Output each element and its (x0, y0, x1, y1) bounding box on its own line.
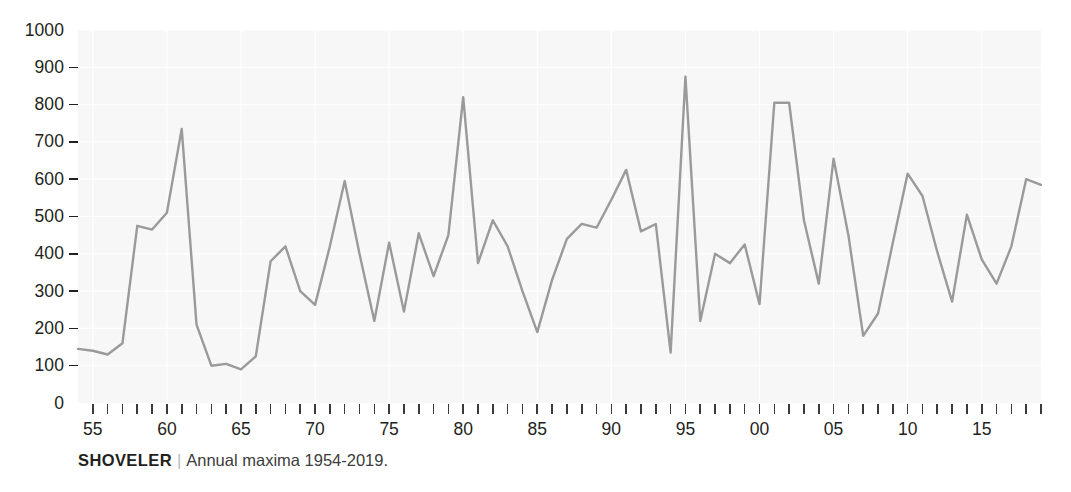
x-axis-tick-mark (774, 404, 776, 414)
data-series-line (78, 77, 1041, 370)
x-axis-tick-mark (448, 404, 450, 414)
x-axis-tick-label: 85 (528, 421, 547, 439)
x-axis-tick-label: 90 (602, 421, 621, 439)
y-axis-tick-mark (69, 141, 78, 143)
x-axis-tick-mark (329, 404, 331, 414)
x-axis-tick-mark (507, 404, 509, 414)
y-axis-tick-label: 300 (8, 283, 64, 301)
x-axis-tick-label: 00 (750, 421, 769, 439)
x-axis-tick-mark (729, 404, 731, 414)
x-axis-tick-mark (418, 404, 420, 414)
x-axis-tick-mark (359, 404, 361, 414)
x-axis-tick-mark (211, 404, 213, 414)
x-axis-tick-mark (92, 404, 94, 414)
x-axis-tick-mark (551, 404, 553, 414)
chart-caption: SHOVELER|Annual maxima 1954-2019. (78, 452, 388, 469)
x-axis-tick-mark (136, 404, 138, 414)
x-axis-tick-mark (374, 404, 376, 414)
x-axis-tick-mark (818, 404, 820, 414)
x-axis-tick-mark (833, 404, 835, 414)
x-axis-tick-label: 60 (157, 421, 176, 439)
x-axis-tick-mark (981, 404, 983, 414)
x-axis-tick-mark (151, 404, 153, 414)
x-axis-tick-mark (403, 404, 405, 414)
gridlines (78, 30, 1041, 403)
x-axis-tick-mark (1040, 404, 1042, 414)
x-axis-tick-mark (433, 404, 435, 414)
x-axis-tick-mark (522, 404, 524, 414)
x-axis-tick-mark (181, 404, 183, 414)
x-axis-tick-mark (922, 404, 924, 414)
x-axis-tick-mark (270, 404, 272, 414)
y-axis-tick-mark (69, 104, 78, 106)
y-axis-tick-label: 900 (8, 59, 64, 77)
x-axis-tick-mark (714, 404, 716, 414)
y-axis-tick-mark (69, 365, 78, 367)
y-axis-tick-label: 600 (8, 171, 64, 189)
y-axis-tick-mark (69, 178, 78, 180)
x-axis-tick-mark (299, 404, 301, 414)
x-axis-tick-label: 15 (972, 421, 991, 439)
x-axis-tick-label: 10 (898, 421, 917, 439)
x-axis-tick-mark (107, 404, 109, 414)
x-axis-tick-label: 55 (83, 421, 102, 439)
x-axis-tick-mark (788, 404, 790, 414)
x-axis-tick-label: 05 (824, 421, 843, 439)
x-axis-tick-label: 75 (379, 421, 398, 439)
x-axis-tick-mark (907, 404, 909, 414)
x-axis-tick-mark (255, 404, 257, 414)
x-axis-tick-mark (344, 404, 346, 414)
x-axis-tick-mark (462, 404, 464, 414)
x-axis-tick-label: 95 (676, 421, 695, 439)
x-axis-tick-mark (1025, 404, 1027, 414)
x-axis-tick-mark (951, 404, 953, 414)
x-axis-tick-label: 70 (305, 421, 324, 439)
y-axis-tick-mark (69, 290, 78, 292)
x-axis-tick-label: 80 (453, 421, 472, 439)
y-axis-tick-label: 0 (8, 395, 64, 413)
x-axis-tick-mark (492, 404, 494, 414)
x-axis-tick-mark (848, 404, 850, 414)
y-axis-tick-mark (69, 328, 78, 330)
caption-title: SHOVELER (78, 451, 172, 469)
x-axis-tick-mark (744, 404, 746, 414)
x-axis-tick-mark (611, 404, 613, 414)
x-axis-tick-mark (877, 404, 879, 414)
y-axis-tick-label: 400 (8, 245, 64, 263)
x-axis-tick-mark (536, 404, 538, 414)
y-axis-tick-label: 800 (8, 96, 64, 114)
x-axis-tick-mark (966, 404, 968, 414)
x-axis-tick-mark (655, 404, 657, 414)
x-axis-tick-mark (122, 404, 124, 414)
x-axis-tick-mark (1011, 404, 1013, 414)
y-axis-tick-label: 100 (8, 357, 64, 375)
x-axis-tick-mark (862, 404, 864, 414)
x-axis-tick-mark (225, 404, 227, 414)
x-axis-tick-mark (996, 404, 998, 414)
y-axis-tick-label: 500 (8, 208, 64, 226)
x-axis-tick-mark (640, 404, 642, 414)
y-axis-tick-mark (69, 216, 78, 218)
x-axis-tick-mark (166, 404, 168, 414)
x-axis-tick-mark (477, 404, 479, 414)
x-axis-tick-mark (699, 404, 701, 414)
caption-subtitle: Annual maxima 1954-2019. (186, 451, 388, 469)
x-axis-tick-mark (196, 404, 198, 414)
x-axis-tick-mark (670, 404, 672, 414)
x-axis-tick-mark (759, 404, 761, 414)
x-axis-tick-mark (581, 404, 583, 414)
x-axis-tick-mark (936, 404, 938, 414)
x-axis-tick-mark (803, 404, 805, 414)
y-axis-tick-label: 200 (8, 320, 64, 338)
y-axis-tick-label: 1000 (8, 22, 64, 40)
x-axis-tick-label: 65 (231, 421, 250, 439)
x-axis-tick-mark (285, 404, 287, 414)
y-axis-tick-mark (69, 253, 78, 255)
y-axis-tick-mark (69, 67, 78, 69)
chart-figure: 01002003004005006007008009001000 5560657… (0, 0, 1071, 492)
x-axis-tick-mark (314, 404, 316, 414)
x-axis-tick-mark (566, 404, 568, 414)
x-axis-tick-mark (685, 404, 687, 414)
x-axis-tick-mark (596, 404, 598, 414)
x-axis-tick-mark (388, 404, 390, 414)
